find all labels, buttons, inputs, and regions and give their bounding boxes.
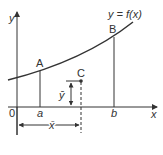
x-axis-label: x xyxy=(150,108,157,120)
tick-a-label: a xyxy=(37,107,43,119)
point-a-label: A xyxy=(36,57,44,69)
y-bar-label: ȳ xyxy=(58,89,66,101)
point-b-label: B xyxy=(109,23,116,35)
x-bar-label: x̄ xyxy=(48,119,55,131)
tick-b-label: b xyxy=(111,107,117,119)
y-axis-label: y xyxy=(8,12,16,24)
origin-label: 0 xyxy=(9,107,15,119)
curve-label: y = f(x) xyxy=(107,8,142,20)
point-c-label: C xyxy=(77,67,85,79)
centroid-diagram: y y = f(x) A B C ȳ 0 a b x x̄ xyxy=(0,0,163,155)
